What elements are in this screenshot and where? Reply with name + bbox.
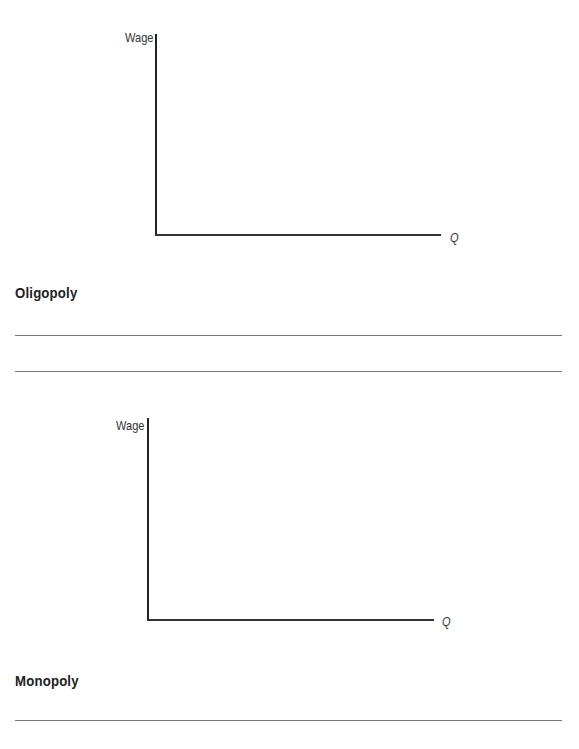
y-axis [147,418,149,621]
answer-line[interactable] [15,335,562,336]
answer-line[interactable] [15,720,562,721]
y-axis [155,34,157,236]
answer-line[interactable] [15,371,562,372]
section-title-monopoly: Monopoly [15,672,79,689]
x-axis-label: Q [450,230,459,245]
section-title-oligopoly: Oligopoly [15,284,77,301]
x-axis [147,619,434,621]
x-axis [155,234,441,236]
x-axis-label: Q [442,614,451,629]
y-axis-label: Wage [125,30,153,45]
y-axis-label: Wage [116,418,144,433]
